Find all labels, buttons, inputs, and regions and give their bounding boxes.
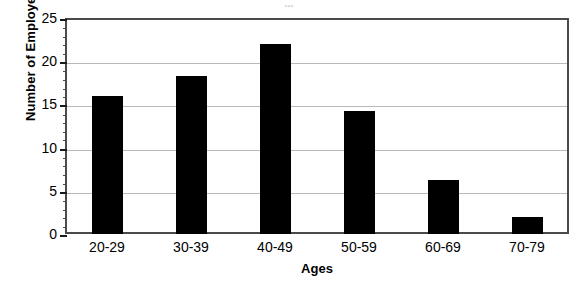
bar[interactable] bbox=[260, 44, 291, 234]
bar[interactable] bbox=[176, 76, 207, 234]
bar-chart: ... Number of Employees 20-2930-3940-495… bbox=[0, 0, 578, 291]
x-tick-labels: 20-2930-3940-4950-5960-6970-79 bbox=[65, 238, 569, 258]
x-axis-tick-label: 20-29 bbox=[62, 238, 152, 256]
x-axis-tick-label: 40-49 bbox=[230, 238, 320, 256]
bar-slot bbox=[65, 18, 149, 234]
y-axis-tick-label: 15 bbox=[21, 97, 57, 111]
bar-slot bbox=[233, 18, 317, 234]
bar[interactable] bbox=[512, 217, 543, 234]
x-axis-tick-label: 30-39 bbox=[146, 238, 236, 256]
bar-series bbox=[65, 18, 569, 234]
x-axis-tick-label: 70-79 bbox=[482, 238, 572, 256]
y-axis-tick bbox=[60, 235, 67, 237]
y-axis-tick-label: 5 bbox=[21, 184, 57, 198]
x-axis-tick-label: 50-59 bbox=[314, 238, 404, 256]
bar[interactable] bbox=[428, 180, 459, 234]
bar[interactable] bbox=[92, 96, 123, 234]
bar-slot bbox=[401, 18, 485, 234]
x-axis-tick-label: 60-69 bbox=[398, 238, 488, 256]
chart-title-cropped: ... bbox=[0, 0, 578, 7]
y-axis-tick-label: 20 bbox=[21, 54, 57, 68]
y-axis-tick-label: 0 bbox=[21, 227, 57, 241]
x-axis-title: Ages bbox=[65, 261, 569, 276]
bar[interactable] bbox=[344, 111, 375, 234]
bar-slot bbox=[317, 18, 401, 234]
y-axis-tick-label: 10 bbox=[21, 141, 57, 155]
y-axis-tick-label: 25 bbox=[21, 11, 57, 25]
bar-slot bbox=[149, 18, 233, 234]
bar-slot bbox=[485, 18, 569, 234]
